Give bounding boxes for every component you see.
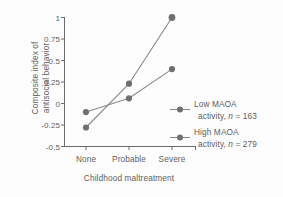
legend-low-n-value: = 163 xyxy=(233,111,257,121)
legend-label-high-maoa-line2: activity, n = 279 xyxy=(194,139,283,151)
legend-marker-low-maoa xyxy=(170,106,190,113)
data-point-high-none xyxy=(83,124,89,130)
legend-item-high-maoa: High MAOA activity, n = 279 xyxy=(170,127,283,150)
chart-figure: Composite index of antisocial behavior 1… xyxy=(0,0,283,197)
legend-item-low-maoa: Low MAOA activity, n = 163 xyxy=(170,99,283,122)
series-line-low-maoa xyxy=(86,69,172,112)
legend-label-high-maoa-line1: High MAOA xyxy=(194,127,239,137)
series-line-high-maoa xyxy=(86,18,172,128)
legend-high-n-value: = 279 xyxy=(233,139,257,149)
data-point-high-probable xyxy=(126,81,132,87)
legend-label-high-maoa: High MAOA activity, n = 279 xyxy=(194,127,283,150)
legend-low-activity-text: activity, xyxy=(198,111,228,121)
data-point-high-severe xyxy=(169,14,176,21)
data-point-low-probable xyxy=(126,95,132,101)
legend-label-low-maoa-line1: Low MAOA xyxy=(194,99,237,109)
legend-marker-high-maoa xyxy=(170,134,190,141)
legend-label-low-maoa: Low MAOA activity, n = 163 xyxy=(194,99,283,122)
data-point-low-none xyxy=(83,109,89,115)
legend-high-activity-text: activity, xyxy=(198,139,228,149)
data-point-low-severe xyxy=(169,66,175,72)
legend-label-low-maoa-line2: activity, n = 163 xyxy=(194,111,283,123)
chart-legend: Low MAOA activity, n = 163 High MAOA act… xyxy=(170,99,283,155)
